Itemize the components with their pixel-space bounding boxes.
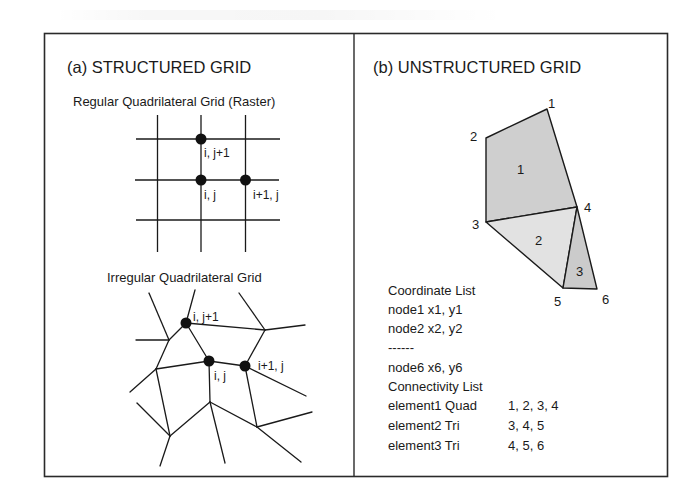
regular-grid-lines <box>135 115 280 252</box>
regular-grid-subtitle: Regular Quadrilateral Grid (Raster) <box>73 94 275 109</box>
connectivity-element-name: element3 Tri <box>388 438 460 453</box>
regular-grid: Regular Quadrilateral Grid (Raster) i, j… <box>73 94 280 252</box>
connectivity-element-nodes: 3, 4, 5 <box>508 418 544 433</box>
element-2-label: 2 <box>535 233 542 248</box>
coordinate-line: node1 x1, y1 <box>388 302 462 317</box>
connectivity-list-heading: Connectivity List <box>388 379 483 394</box>
coordinate-list: Coordinate List node1 x1, y1 node2 x2, y… <box>388 283 476 375</box>
coordinate-line: node2 x2, y2 <box>388 321 462 336</box>
node-3-label: 3 <box>472 217 479 232</box>
panel-a-title: (a) STRUCTURED GRID <box>67 58 251 76</box>
label-iplus1-j: i+1, j <box>253 188 279 202</box>
node-i-j <box>204 356 215 367</box>
connectivity-list: Connectivity List element1 Quad 1, 2, 3,… <box>388 379 559 453</box>
node-4-label: 4 <box>584 200 591 215</box>
element-1-label: 1 <box>517 162 524 177</box>
node-iplus1-j <box>240 175 251 186</box>
coordinate-list-heading: Coordinate List <box>388 283 476 298</box>
label-i-jplus1: i, j+1 <box>204 146 230 160</box>
node-i-jplus1 <box>181 318 192 329</box>
node-i-j <box>196 175 207 186</box>
element-2-tri <box>486 207 577 288</box>
panel-structured-grid: (a) STRUCTURED GRID Regular Quadrilatera… <box>67 58 312 466</box>
coordinate-ellipsis: ------ <box>388 340 414 355</box>
panel-unstructured-grid: (b) UNSTRUCTURED GRID 1 2 3 1 2 3 4 5 6 … <box>373 58 609 453</box>
irregular-grid-subtitle: Irregular Quadrilateral Grid <box>107 270 262 285</box>
node-6-label: 6 <box>602 292 609 307</box>
label-i-j: i, j <box>214 369 226 383</box>
label-i-j: i, j <box>204 188 216 202</box>
connectivity-element-nodes: 1, 2, 3, 4 <box>508 398 559 413</box>
connectivity-element-nodes: 4, 5, 6 <box>508 438 544 453</box>
node-iplus1-j <box>240 361 251 372</box>
grid-comparison-diagram: (a) STRUCTURED GRID Regular Quadrilatera… <box>0 0 694 500</box>
node-i-jplus1 <box>196 134 207 145</box>
irregular-grid: Irregular Quadrilateral Grid <box>107 270 312 466</box>
connectivity-element-name: element2 Tri <box>388 418 460 433</box>
element-3-label: 3 <box>576 264 583 279</box>
node-1-label: 1 <box>548 96 555 111</box>
panel-b-title: (b) UNSTRUCTURED GRID <box>373 58 581 76</box>
node-2-label: 2 <box>470 129 477 144</box>
label-iplus1-j: i+1, j <box>258 359 284 373</box>
coordinate-line: node6 x6, y6 <box>388 360 462 375</box>
node-5-label: 5 <box>554 294 561 309</box>
connectivity-element-name: element1 Quad <box>388 398 477 413</box>
element-1-quad <box>486 109 577 222</box>
label-i-jplus1: i, j+1 <box>193 310 219 324</box>
unstructured-mesh <box>486 109 597 289</box>
